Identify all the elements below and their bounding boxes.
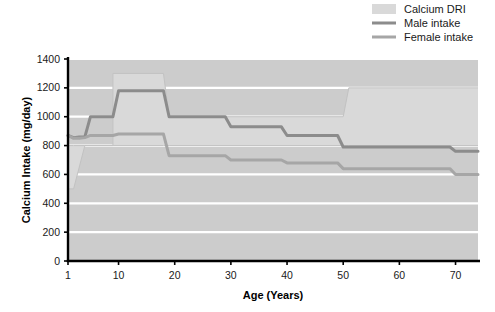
chart-legend: Calcium DRI Male intake Female intake	[372, 3, 473, 43]
y-tick-label-1000: 1000	[37, 110, 61, 122]
x-tick-label-60: 60	[394, 269, 406, 281]
y-tick-label-200: 200	[42, 226, 60, 238]
x-tick-label-50: 50	[337, 269, 349, 281]
legend-label-calcium-dri: Calcium DRI	[404, 3, 466, 15]
y-axis-title: Calcium Intake (mg/day)	[20, 96, 32, 223]
y-tick-label-600: 600	[42, 168, 60, 180]
x-tick-label-10: 10	[113, 269, 125, 281]
legend-swatch-male-intake	[372, 22, 396, 25]
y-tick-label-1200: 1200	[37, 81, 61, 93]
x-axis-ticks: 110203040506070	[65, 261, 461, 281]
x-tick-label-30: 30	[225, 269, 237, 281]
x-axis-title: Age (Years)	[243, 289, 304, 301]
x-tick-label-40: 40	[281, 269, 293, 281]
x-tick-label-70: 70	[450, 269, 462, 281]
y-tick-label-800: 800	[42, 139, 60, 151]
y-axis-ticks: 0200400600800100012001400	[37, 53, 68, 267]
legend-label-female-intake: Female intake	[404, 31, 473, 43]
y-tick-label-400: 400	[42, 197, 60, 209]
calcium-intake-chart-figure: Calcium DRI Male intake Female intake 02…	[0, 0, 495, 312]
legend-swatch-female-intake	[372, 36, 396, 39]
x-tick-label-20: 20	[169, 269, 181, 281]
y-tick-label-0: 0	[54, 255, 60, 267]
legend-label-male-intake: Male intake	[404, 17, 460, 29]
x-tick-label-1: 1	[65, 269, 71, 281]
chart-canvas: Calcium DRI Male intake Female intake 02…	[0, 0, 495, 312]
legend-swatch-calcium-dri	[372, 4, 396, 14]
y-tick-label-1400: 1400	[37, 53, 61, 65]
